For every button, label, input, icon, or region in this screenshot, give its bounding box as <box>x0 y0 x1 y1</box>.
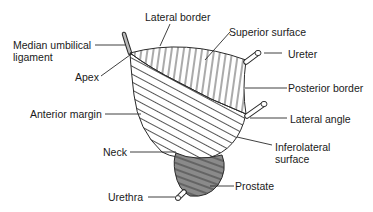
label-ureter: Ureter <box>288 48 317 60</box>
label-inferolateral-surface-line2: surface <box>275 153 309 165</box>
urethra-tube <box>175 192 184 200</box>
label-prostate: Prostate <box>235 180 274 192</box>
label-median-umbilical-ligament-line1: Median umbilical <box>13 39 91 51</box>
label-lateral-angle: Lateral angle <box>290 113 351 125</box>
ureter-upper <box>246 50 261 62</box>
label-urethra: Urethra <box>108 191 143 203</box>
ureter-lower <box>247 101 267 116</box>
label-anterior-margin: Anterior margin <box>30 108 102 120</box>
label-median-umbilical-ligament-line2: ligament <box>13 51 53 63</box>
label-neck: Neck <box>103 146 127 158</box>
label-apex: Apex <box>75 71 99 83</box>
label-inferolateral-surface-line1: Inferolateral <box>275 141 330 153</box>
label-lateral-border: Lateral border <box>145 11 210 23</box>
label-superior-surface: Superior surface <box>229 26 306 38</box>
median-umbilical-ligament <box>124 34 130 53</box>
prostate-region <box>174 153 224 196</box>
bladder-illustration <box>0 0 373 212</box>
bladder-diagram: Lateral border Superior surface Median u… <box>0 0 373 212</box>
label-posterior-border: Posterior border <box>288 82 363 94</box>
